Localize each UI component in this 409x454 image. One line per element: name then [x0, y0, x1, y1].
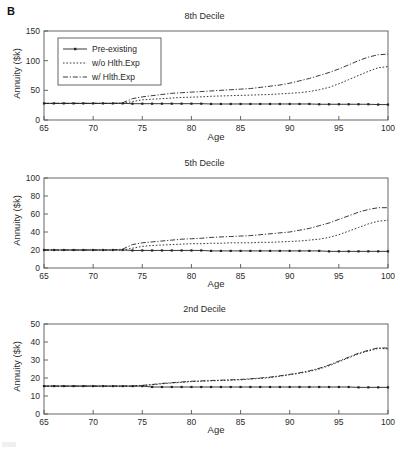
svg-text:40: 40	[31, 337, 41, 347]
plot-area: 05010015065707580859095100Pre-existingw/…	[0, 0, 409, 150]
svg-text:65: 65	[39, 417, 49, 427]
svg-text:85: 85	[236, 417, 246, 427]
chart-panel-5th-decile: 5th Decile Annuity ($k) Age 020406080100…	[0, 147, 409, 297]
svg-text:10: 10	[31, 391, 41, 401]
plot-area: 0102030405065707580859095100	[0, 293, 409, 448]
svg-text:65: 65	[39, 271, 49, 281]
svg-text:30: 30	[31, 355, 41, 365]
svg-text:95: 95	[334, 417, 344, 427]
svg-text:100: 100	[381, 271, 395, 281]
svg-text:w/ Hlth.Exp: w/ Hlth.Exp	[91, 72, 135, 82]
svg-text:100: 100	[26, 56, 40, 66]
svg-text:100: 100	[381, 123, 395, 133]
svg-text:150: 150	[26, 26, 40, 36]
svg-text:40: 40	[31, 227, 41, 237]
chart-panel-2nd-decile: 2nd Decile Annuity ($k) Age 010203040506…	[0, 293, 409, 448]
svg-text:85: 85	[236, 123, 246, 133]
svg-text:80: 80	[187, 271, 197, 281]
svg-text:75: 75	[138, 417, 148, 427]
svg-text:70: 70	[88, 123, 98, 133]
svg-text:50: 50	[31, 85, 41, 95]
svg-text:80: 80	[187, 123, 197, 133]
svg-text:w/o Hlth.Exp: w/o Hlth.Exp	[91, 58, 140, 68]
svg-text:20: 20	[31, 373, 41, 383]
svg-text:95: 95	[334, 123, 344, 133]
svg-text:90: 90	[285, 417, 295, 427]
svg-text:100: 100	[26, 173, 40, 183]
svg-text:Pre-existing: Pre-existing	[92, 44, 137, 54]
svg-text:90: 90	[285, 123, 295, 133]
svg-text:80: 80	[187, 417, 197, 427]
svg-text:75: 75	[138, 271, 148, 281]
figure-panel-b: B 8th Decile Annuity ($k) Age 0501001506…	[0, 0, 409, 454]
svg-text:85: 85	[236, 271, 246, 281]
svg-text:65: 65	[39, 123, 49, 133]
svg-text:20: 20	[31, 245, 41, 255]
svg-text:70: 70	[88, 271, 98, 281]
svg-text:50: 50	[31, 319, 41, 329]
chart-panel-8th-decile: 8th Decile Annuity ($k) Age 050100150657…	[0, 0, 409, 150]
svg-text:95: 95	[334, 271, 344, 281]
svg-text:90: 90	[285, 271, 295, 281]
svg-text:60: 60	[31, 209, 41, 219]
svg-text:70: 70	[88, 417, 98, 427]
plot-area: 02040608010065707580859095100	[0, 147, 409, 297]
svg-text:80: 80	[31, 191, 41, 201]
svg-text:75: 75	[138, 123, 148, 133]
svg-text:100: 100	[381, 417, 395, 427]
